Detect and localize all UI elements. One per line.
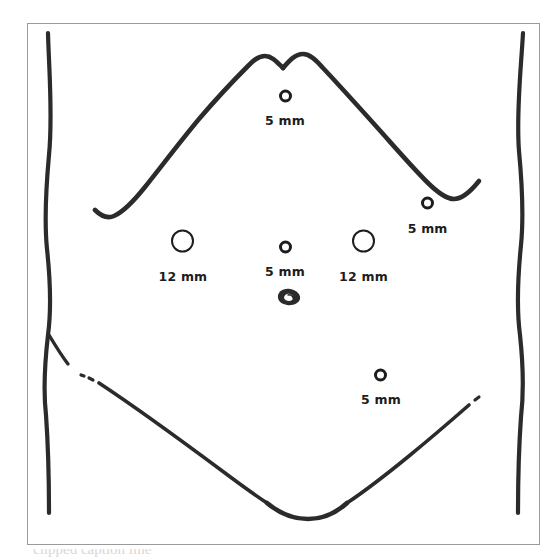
- port-size-label: 5 mm: [265, 266, 305, 279]
- port-size-label: 12 mm: [159, 270, 208, 283]
- trocar-port-right-lower-quadrant: 5 mm: [380, 375, 381, 376]
- figure-page: 5 mm5 mm12 mm5 mm12 mm5 mm clipped capti…: [0, 0, 559, 560]
- trocar-port-epigastric: 5 mm: [285, 96, 286, 97]
- trocar-port-right-flank: 5 mm: [427, 203, 428, 204]
- caption-text: clipped caption line: [33, 549, 151, 558]
- port-circle-icon: [279, 240, 292, 253]
- port-size-label: 5 mm: [361, 394, 401, 407]
- clipped-caption-strip: clipped caption line: [27, 549, 540, 560]
- port-circle-icon: [279, 89, 292, 102]
- port-circle-icon: [171, 230, 194, 253]
- port-circle-icon: [421, 197, 434, 210]
- port-circle-icon: [374, 368, 387, 381]
- port-circle-icon: [352, 230, 375, 253]
- trocar-port-right-midclavicular: 12 mm: [363, 241, 364, 242]
- trocar-port-supraumbilical-midline: 5 mm: [285, 247, 286, 248]
- port-size-label: 5 mm: [265, 115, 305, 128]
- trocar-port-left-midclavicular: 12 mm: [182, 241, 183, 242]
- port-size-label: 5 mm: [408, 222, 448, 235]
- umbilicus-marker: [274, 286, 304, 308]
- port-size-label: 12 mm: [339, 270, 388, 283]
